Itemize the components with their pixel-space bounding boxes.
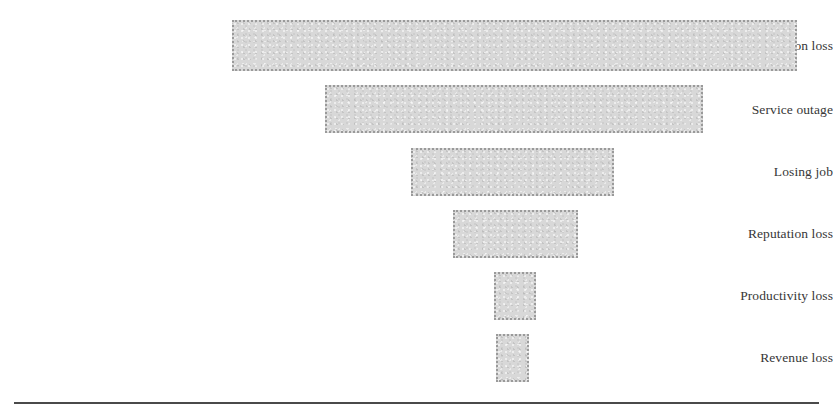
bar-reputation-loss — [453, 210, 578, 258]
bar-productivity-loss — [494, 272, 536, 320]
footer-rule — [14, 402, 819, 404]
bar-losing-job — [411, 148, 614, 196]
bar-label-reputation-loss: Reputation loss — [621, 227, 833, 242]
bar-label-losing-job: Losing job — [621, 165, 833, 180]
bar-label-revenue-loss: Revenue loss — [621, 351, 833, 366]
bar-revenue-loss — [496, 334, 529, 382]
bar-data-leakage — [232, 20, 797, 71]
impact-funnel-chart: Data Lekage/ information loss Service ou… — [0, 0, 833, 417]
bar-service-outage — [325, 85, 703, 133]
bar-label-productivity-loss: Productivity loss — [621, 289, 833, 304]
